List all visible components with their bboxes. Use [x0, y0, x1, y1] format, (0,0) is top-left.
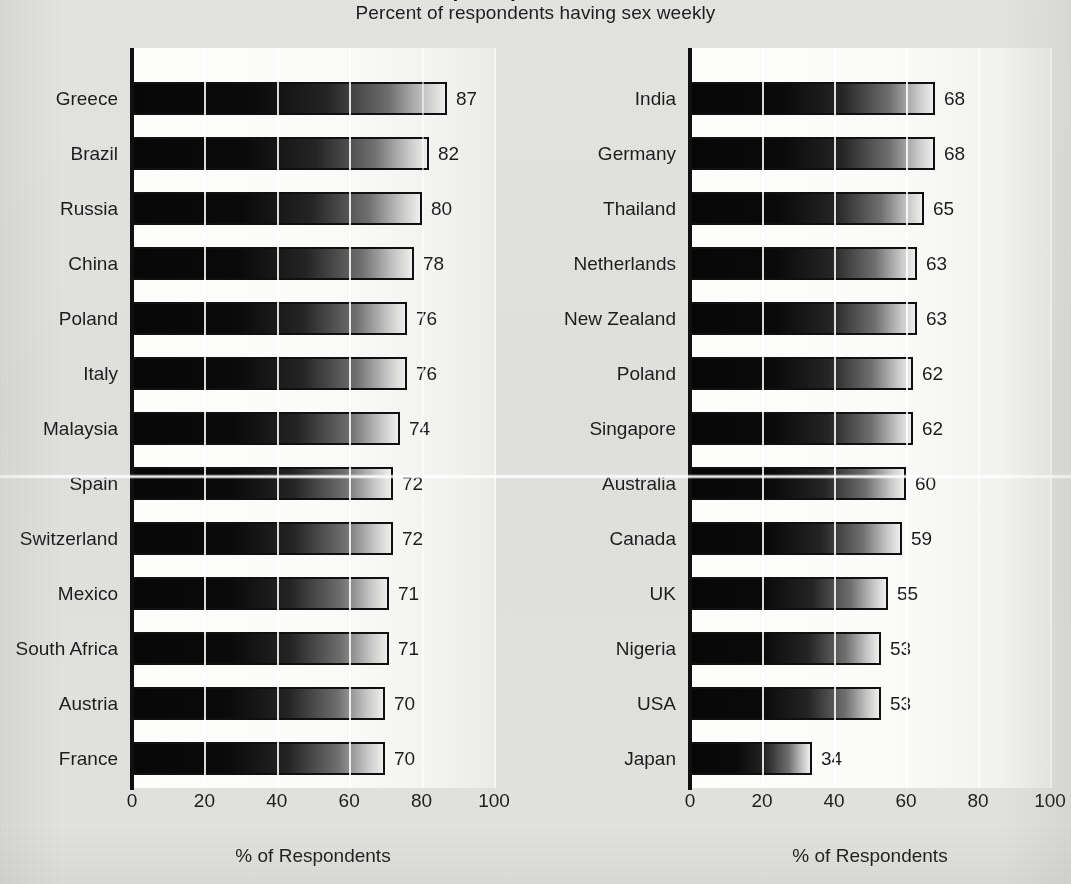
bar-value-label: 76	[416, 302, 437, 336]
bar-row: Mexico71	[0, 577, 536, 632]
bar-row: UK55	[536, 577, 1071, 632]
bar[interactable]	[690, 412, 913, 445]
bar-row: Brazil82	[0, 137, 536, 192]
gridline-80	[978, 48, 980, 788]
bar-value-label: 72	[402, 467, 423, 501]
chart-panel-right: India68Germany68Thailand65Netherlands63N…	[536, 0, 1071, 884]
category-label: Spain	[0, 467, 118, 501]
x-axis-tick-40: 40	[266, 790, 287, 812]
bar[interactable]	[132, 137, 429, 170]
bar[interactable]	[690, 192, 924, 225]
bar-row: South Africa71	[0, 632, 536, 687]
category-label: Brazil	[0, 137, 118, 171]
bar[interactable]	[132, 467, 393, 500]
bar[interactable]	[690, 632, 881, 665]
bar[interactable]	[690, 137, 935, 170]
bar[interactable]	[690, 302, 917, 335]
category-label: Canada	[536, 522, 676, 556]
bar-row: USA53	[536, 687, 1071, 742]
category-label: USA	[536, 687, 676, 721]
x-axis-title: % of Respondents	[792, 845, 947, 867]
bar-value-label: 87	[456, 82, 477, 116]
bar[interactable]	[132, 247, 414, 280]
bar-value-label: 70	[394, 687, 415, 721]
category-label: China	[0, 247, 118, 281]
bar-value-label: 74	[409, 412, 430, 446]
bar-value-label: 63	[926, 302, 947, 336]
bar-row: Austria70	[0, 687, 536, 742]
bar-value-label: 34	[821, 742, 842, 776]
chart-panel-left: Greece87Brazil82Russia80China78Poland76I…	[0, 0, 536, 884]
x-axis-tick-60: 60	[895, 790, 916, 812]
bar-row: Russia80	[0, 192, 536, 247]
bar[interactable]	[690, 82, 935, 115]
bar-value-label: 63	[926, 247, 947, 281]
category-label: Russia	[0, 192, 118, 226]
category-label: Greece	[0, 82, 118, 116]
bar-value-label: 71	[398, 577, 419, 611]
bar-row: Malaysia74	[0, 412, 536, 467]
category-label: Nigeria	[536, 632, 676, 666]
bar-row: Switzerland72	[0, 522, 536, 577]
bar-row: Italy76	[0, 357, 536, 412]
bar-row: Poland62	[536, 357, 1071, 412]
bar[interactable]	[690, 247, 917, 280]
x-axis-tick-80: 80	[411, 790, 432, 812]
bar-row: Australia60	[536, 467, 1071, 522]
category-label: Australia	[536, 467, 676, 501]
bar-value-label: 80	[431, 192, 452, 226]
bar-value-label: 59	[911, 522, 932, 556]
bar-value-label: 72	[402, 522, 423, 556]
bar-value-label: 60	[915, 467, 936, 501]
x-axis-title: % of Respondents	[235, 845, 390, 867]
bar[interactable]	[690, 577, 888, 610]
gridline-20	[204, 48, 206, 788]
bar-row: Germany68	[536, 137, 1071, 192]
category-label: South Africa	[0, 632, 118, 666]
bar-value-label: 62	[922, 357, 943, 391]
x-axis-tick-100: 100	[478, 790, 510, 812]
category-label: France	[0, 742, 118, 776]
category-label: Germany	[536, 137, 676, 171]
bar[interactable]	[132, 302, 407, 335]
gridline-40	[277, 48, 279, 788]
bar[interactable]	[132, 412, 400, 445]
bar-row: Canada59	[536, 522, 1071, 577]
bar[interactable]	[132, 742, 385, 775]
bar-row: New Zealand63	[536, 302, 1071, 357]
bar-value-label: 68	[944, 82, 965, 116]
bar-row: Singapore62	[536, 412, 1071, 467]
bar-value-label: 71	[398, 632, 419, 666]
bar[interactable]	[690, 467, 906, 500]
bar-value-label: 62	[922, 412, 943, 446]
category-label: Mexico	[0, 577, 118, 611]
x-axis-tick-0: 0	[127, 790, 138, 812]
bar-value-label: 68	[944, 137, 965, 171]
bar-row: Greece87	[0, 82, 536, 137]
bar-value-label: 82	[438, 137, 459, 171]
bar[interactable]	[132, 522, 393, 555]
category-label: Poland	[536, 357, 676, 391]
gridline-40	[834, 48, 836, 788]
bar[interactable]	[132, 687, 385, 720]
bar[interactable]	[690, 357, 913, 390]
bar-value-label: 65	[933, 192, 954, 226]
bar[interactable]	[690, 742, 812, 775]
gridline-20	[762, 48, 764, 788]
bar-row: Japan34	[536, 742, 1071, 797]
bar-value-label: 78	[423, 247, 444, 281]
bar-row: Nigeria53	[536, 632, 1071, 687]
bar[interactable]	[132, 82, 447, 115]
category-label: Malaysia	[0, 412, 118, 446]
category-label: Singapore	[536, 412, 676, 446]
bar-row: Spain72	[0, 467, 536, 522]
bar[interactable]	[690, 522, 902, 555]
category-label: UK	[536, 577, 676, 611]
x-axis-tick-40: 40	[823, 790, 844, 812]
gridline-100	[494, 48, 496, 788]
category-label: India	[536, 82, 676, 116]
bar-row: France70	[0, 742, 536, 797]
bar[interactable]	[132, 357, 407, 390]
bar-value-label: 70	[394, 742, 415, 776]
bar[interactable]	[690, 687, 881, 720]
